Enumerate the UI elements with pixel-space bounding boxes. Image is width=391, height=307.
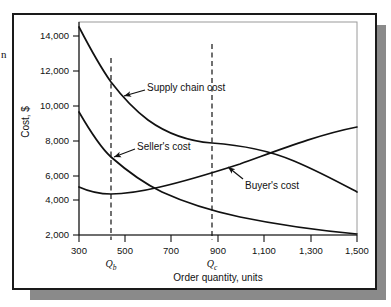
- annotation-supply-chain-cost: Supply chain cost: [147, 82, 225, 93]
- annotation-sellers-cost: Seller's cost: [137, 141, 191, 152]
- x-tick-label: 300: [59, 245, 99, 256]
- x-tick-label: 500: [105, 245, 145, 256]
- x-tick-label: 1,500: [337, 245, 377, 256]
- annotation-buyers-cost: Buyer's cost: [245, 180, 299, 191]
- y-tick-label: 12,000: [25, 65, 69, 76]
- figure-root: n: [0, 0, 391, 307]
- x-tick-label: 1,300: [291, 245, 331, 256]
- x-tick-label: 1,100: [244, 245, 284, 256]
- marker-label-qc-sub: c: [214, 263, 217, 272]
- margin-text-fragment: n: [1, 48, 7, 60]
- y-tick-label: 14,000: [25, 30, 69, 41]
- marker-label-qc: Qc: [200, 258, 224, 272]
- x-axis-title: Order quantity, units: [118, 272, 318, 283]
- marker-label-qb-sub: b: [113, 263, 117, 272]
- y-tick-label: 10,000: [25, 100, 69, 111]
- y-tick-label: 2,000: [25, 229, 69, 240]
- x-tick-label: 900: [198, 245, 238, 256]
- x-tick-label: 700: [151, 245, 191, 256]
- marker-label-qc-text: Q: [207, 258, 214, 269]
- marker-label-qb-text: Q: [106, 258, 113, 269]
- y-axis-title: Cost, $: [20, 92, 31, 152]
- y-tick-label: 6,000: [25, 170, 69, 181]
- marker-label-qb: Qb: [99, 258, 123, 272]
- y-tick-label: 4,000: [25, 194, 69, 205]
- y-tick-label: 8,000: [25, 135, 69, 146]
